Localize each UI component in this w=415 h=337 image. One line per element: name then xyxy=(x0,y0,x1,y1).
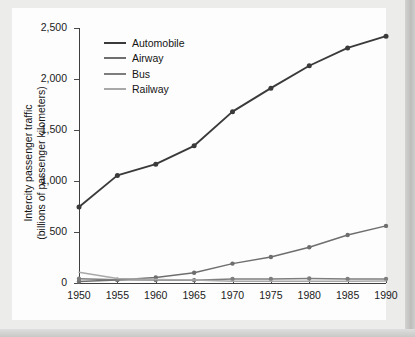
figure-page-background: Intercity passenger traffic (billions of… xyxy=(0,0,415,337)
legend-swatch-railway-icon xyxy=(104,88,126,90)
chart-legend: AutomobileAirwayBusRailway xyxy=(104,36,185,96)
series-marker-automobile xyxy=(115,173,120,178)
series-marker-automobile xyxy=(230,109,235,114)
series-marker-automobile xyxy=(192,143,197,148)
legend-item-automobile[interactable]: Automobile xyxy=(104,36,185,49)
series-marker-bus xyxy=(269,277,273,281)
series-marker-airway xyxy=(230,261,234,265)
legend-item-bus[interactable]: Bus xyxy=(104,67,185,80)
series-marker-airway xyxy=(384,224,388,228)
series-marker-airway xyxy=(192,271,196,275)
legend-label: Airway xyxy=(132,52,164,64)
legend-swatch-bus-icon xyxy=(104,73,126,75)
series-marker-automobile xyxy=(268,86,273,91)
legend-item-railway[interactable]: Railway xyxy=(104,83,185,96)
series-marker-bus xyxy=(307,276,311,280)
legend-swatch-automobile-icon xyxy=(104,42,126,44)
series-marker-automobile xyxy=(77,205,82,210)
legend-label: Bus xyxy=(132,68,150,80)
series-layer xyxy=(0,0,415,337)
legend-label: Automobile xyxy=(132,37,185,49)
series-line-airway xyxy=(79,226,386,282)
line-chart: Intercity passenger traffic (billions of… xyxy=(0,0,415,337)
series-marker-bus xyxy=(77,277,81,281)
series-marker-automobile xyxy=(384,34,389,39)
series-marker-automobile xyxy=(153,162,158,167)
series-marker-automobile xyxy=(345,45,350,50)
legend-label: Railway xyxy=(132,83,169,95)
series-marker-airway xyxy=(345,233,349,237)
series-marker-airway xyxy=(307,245,311,249)
series-marker-automobile xyxy=(307,63,312,68)
series-marker-airway xyxy=(269,255,273,259)
legend-swatch-airway-icon xyxy=(104,57,126,59)
legend-item-airway[interactable]: Airway xyxy=(104,52,185,65)
